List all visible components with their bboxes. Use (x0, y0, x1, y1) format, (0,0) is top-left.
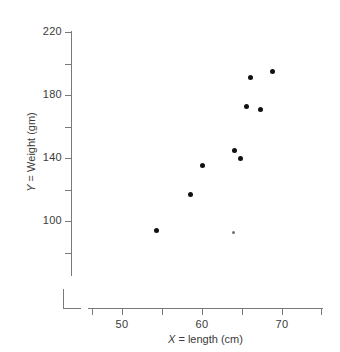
data-point (188, 192, 193, 197)
scatter-plot-figure: 220180140100 506070 X = length (cm) Y = … (0, 0, 340, 352)
data-point (232, 148, 237, 153)
data-point (270, 69, 275, 74)
data-point (238, 156, 243, 161)
data-point (258, 107, 263, 112)
data-point (200, 163, 205, 168)
data-point (232, 231, 235, 234)
data-points-layer (0, 0, 340, 352)
data-point (244, 104, 249, 109)
data-point (154, 228, 159, 233)
data-point (248, 75, 253, 80)
